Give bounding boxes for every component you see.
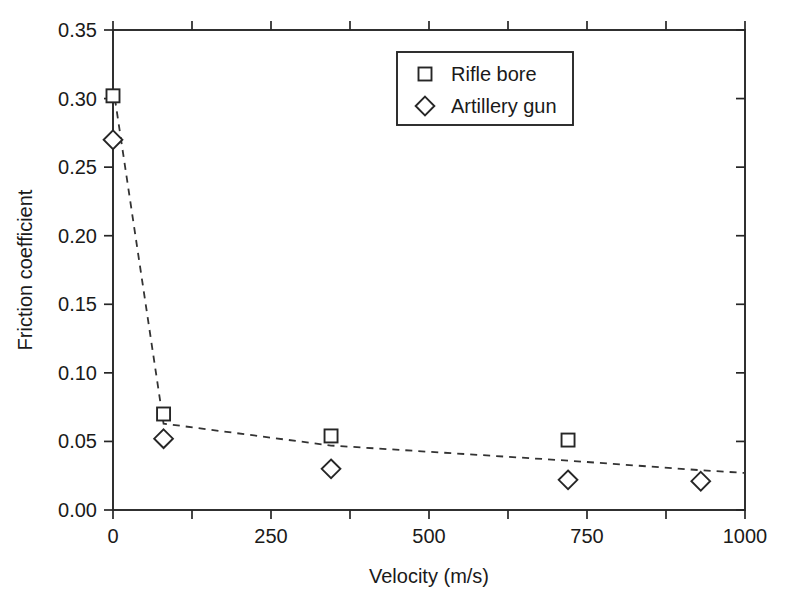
y-tick-label: 0.35 <box>58 19 97 41</box>
x-axis-title: Velocity (m/s) <box>369 565 489 587</box>
data-point-diamond <box>691 472 710 491</box>
y-tick-label: 0.25 <box>58 156 97 178</box>
y-tick-label: 0.00 <box>58 499 97 521</box>
data-point-diamond <box>559 470 578 489</box>
legend-marker-square <box>419 68 432 81</box>
x-tick-label: 1000 <box>723 525 768 547</box>
data-point-diamond <box>154 429 173 448</box>
series-rifle-bore <box>107 89 575 446</box>
data-point-diamond <box>322 459 341 478</box>
data-point-diamond <box>104 130 123 149</box>
data-point-square <box>325 429 338 442</box>
x-tick-label: 250 <box>254 525 287 547</box>
trend-line-path <box>115 99 745 473</box>
series-artillery-gun <box>104 130 710 490</box>
chart-figure: 0.000.050.100.150.200.250.300.35 0250500… <box>0 0 785 606</box>
legend-item-artillery-gun-label: Artillery gun <box>451 95 557 117</box>
friction-velocity-scatter-chart: 0.000.050.100.150.200.250.300.35 0250500… <box>0 0 785 606</box>
y-tick-label: 0.05 <box>58 430 97 452</box>
data-point-square <box>562 434 575 447</box>
legend-item-rifle-bore-label: Rifle bore <box>451 63 537 85</box>
data-point-square <box>107 89 120 102</box>
y-tick-label: 0.15 <box>58 293 97 315</box>
data-point-square <box>157 408 170 421</box>
y-tick-label: 0.10 <box>58 362 97 384</box>
trend-line <box>115 99 745 473</box>
y-tick-label: 0.20 <box>58 225 97 247</box>
data-series-markers <box>104 89 710 490</box>
legend: Rifle bore Artillery gun <box>397 52 573 125</box>
x-tick-label: 500 <box>412 525 445 547</box>
x-tick-label: 0 <box>107 525 118 547</box>
x-tick-label: 750 <box>570 525 603 547</box>
y-axis-title: Friction coefficient <box>14 189 36 350</box>
y-tick-label: 0.30 <box>58 88 97 110</box>
